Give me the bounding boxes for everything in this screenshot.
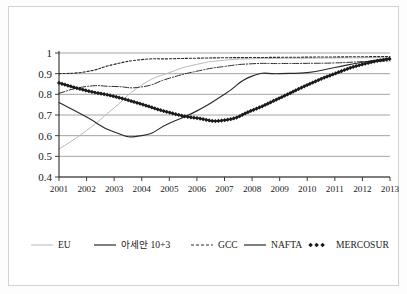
chart-legend: EU아세안 10+3GCCNAFTAMERCOSUR (31, 239, 389, 250)
x-axis-tick-label: 2011 (326, 184, 344, 194)
series-marker (117, 96, 121, 100)
chart-plot-area: 0.40.50.60.70.80.91 20012002200320042005… (9, 7, 400, 287)
x-axis-labels-group: 2001200220032004200520062007200820092010… (50, 184, 400, 194)
series-marker (75, 86, 79, 90)
series-marker (165, 110, 169, 114)
series-marker (84, 88, 88, 92)
series-marker (357, 63, 361, 67)
series-marker (87, 89, 91, 93)
x-axis-tick-label: 2004 (133, 184, 152, 194)
x-axis-tick-label: 2012 (353, 184, 372, 194)
series-marker (204, 118, 208, 122)
legend-item-5[interactable]: MERCOSUR (308, 239, 389, 250)
line-chart: 0.40.50.60.70.80.91 20012002200320042005… (9, 7, 400, 287)
legend-marker (314, 243, 319, 248)
x-axis-tick-label: 2002 (77, 184, 96, 194)
y-axis-tick-label: 0.9 (38, 68, 52, 80)
series-marker (229, 117, 233, 121)
legend-label: GCC (218, 239, 238, 250)
series-marker (102, 92, 106, 96)
y-axis-tick-label: 0.6 (38, 130, 52, 142)
x-axis-tick-label: 2010 (298, 184, 317, 194)
series-marker (114, 95, 118, 99)
series-marker (162, 109, 166, 113)
chart-frame: 0.40.50.60.70.80.91 20012002200320042005… (8, 6, 399, 286)
legend-marker (308, 243, 313, 248)
data-series-group (57, 57, 392, 150)
y-axis-tick-label: 1 (47, 47, 53, 59)
legend-item-4[interactable]: NAFTA (244, 239, 302, 250)
series-4 (59, 58, 390, 137)
legend-item-2[interactable]: 아세안 10+3 (94, 239, 170, 250)
x-axis-tick-label: 2009 (270, 184, 289, 194)
legend-item-1[interactable]: EU (31, 239, 71, 250)
legend-label: 아세안 10+3 (121, 239, 170, 250)
y-axis-tick-label: 0.7 (38, 109, 52, 121)
x-axis-tick-label: 2001 (50, 184, 69, 194)
x-axis-tick-label: 2005 (160, 184, 179, 194)
chart-figure: 0.40.50.60.70.80.91 20012002200320042005… (0, 0, 407, 294)
series-marker (201, 117, 205, 121)
series-marker (354, 64, 358, 68)
x-axis-tick-label: 2003 (105, 184, 124, 194)
series-marker (177, 113, 181, 117)
y-axis-ticks-group (55, 53, 59, 177)
x-axis-tick-label: 2006 (188, 184, 207, 194)
y-axis-tick-label: 0.8 (38, 88, 52, 100)
series-line (59, 58, 390, 137)
x-axis-tick-label: 2013 (381, 184, 400, 194)
legend-marker (320, 243, 325, 248)
legend-label: MERCOSUR (336, 239, 389, 250)
x-axis-tick-label: 2008 (243, 184, 262, 194)
series-marker (105, 93, 109, 97)
y-axis-tick-label: 0.5 (38, 150, 52, 162)
legend-item-3[interactable]: GCC (191, 239, 238, 250)
legend-label: EU (58, 239, 71, 250)
series-marker (81, 88, 85, 92)
series-marker (90, 90, 94, 94)
series-marker (168, 110, 172, 114)
x-axis-ticks-group (59, 177, 390, 181)
series-marker (174, 112, 178, 116)
series-line (59, 59, 390, 121)
y-axis-labels-group: 0.40.50.60.70.80.91 (38, 47, 52, 183)
y-axis-tick-label: 0.4 (38, 171, 52, 183)
x-axis-tick-label: 2007 (215, 184, 234, 194)
legend-label: NAFTA (271, 239, 302, 250)
